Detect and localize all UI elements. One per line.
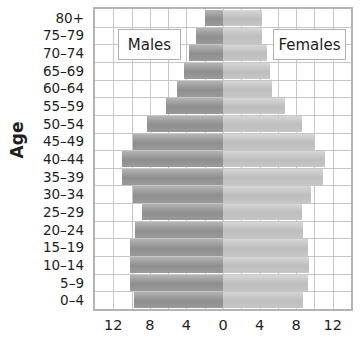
bar-females-10–14 <box>223 257 309 273</box>
x-tick-label: 8 <box>145 317 154 333</box>
population-pyramid-chart: Age 80+75–7970–7465–6960–6455–5950–5445–… <box>0 0 362 348</box>
bar-females-60–64 <box>223 81 272 97</box>
y-tick-label: 80+ <box>56 9 85 27</box>
x-tick-label: 4 <box>255 317 264 333</box>
bar-males-45–49 <box>133 134 223 150</box>
y-tick-label: 30–34 <box>43 185 84 203</box>
y-tick-label: 25–29 <box>43 203 84 221</box>
bar-males-40–44 <box>122 151 223 167</box>
y-tick-label: 60–64 <box>43 79 84 97</box>
bar-females-80+ <box>223 10 262 26</box>
bar-males-0–4 <box>134 292 223 308</box>
bar-females-35–39 <box>223 169 323 185</box>
y-tick-label: 55–59 <box>43 97 84 115</box>
y-tick-label: 15–19 <box>43 238 84 256</box>
bar-males-20–24 <box>135 222 223 238</box>
y-tick-label: 50–54 <box>43 115 84 133</box>
bar-females-55–59 <box>223 98 285 114</box>
y-tick-label: 0–4 <box>60 291 84 309</box>
bar-females-15–19 <box>223 239 308 255</box>
y-tick-label: 10–14 <box>43 256 84 274</box>
bar-males-35–39 <box>122 169 223 185</box>
grid-line-vertical <box>113 9 114 309</box>
bar-females-70–74 <box>223 45 267 61</box>
y-tick-label: 20–24 <box>43 221 84 239</box>
y-tick-label: 70–74 <box>43 44 84 62</box>
bar-males-65–69 <box>184 63 223 79</box>
bar-females-65–69 <box>223 63 270 79</box>
x-tick-label: 12 <box>104 317 122 333</box>
bar-females-20–24 <box>223 222 303 238</box>
bar-males-30–34 <box>133 186 223 202</box>
y-tick-label: 75–79 <box>43 26 84 44</box>
bar-males-5–9 <box>130 275 223 291</box>
y-tick-label: 65–69 <box>43 62 84 80</box>
y-tick-label: 40–44 <box>43 150 84 168</box>
x-tick-label: 12 <box>323 317 341 333</box>
bar-males-15–19 <box>130 239 223 255</box>
bar-males-80+ <box>205 10 223 26</box>
legend-females: Females <box>273 29 346 60</box>
bar-females-75–79 <box>223 28 262 44</box>
bar-females-30–34 <box>223 186 311 202</box>
bar-females-45–49 <box>223 134 314 150</box>
x-tick-label: 8 <box>292 317 301 333</box>
bar-males-50–54 <box>147 116 223 132</box>
y-tick-label: 45–49 <box>43 132 84 150</box>
bar-males-75–79 <box>196 28 223 44</box>
x-tick-label: 4 <box>182 317 191 333</box>
x-tick-label: 0 <box>218 317 227 333</box>
bar-females-25–29 <box>223 204 302 220</box>
bar-males-10–14 <box>130 257 223 273</box>
legend-males: Males <box>118 29 181 60</box>
bar-females-40–44 <box>223 151 325 167</box>
bar-males-60–64 <box>177 81 223 97</box>
y-tick-label: 35–39 <box>43 168 84 186</box>
bar-females-0–4 <box>223 292 303 308</box>
bar-males-25–29 <box>142 204 223 220</box>
y-tick-label: 5–9 <box>60 274 84 292</box>
bar-males-55–59 <box>166 98 223 114</box>
y-axis-title: Age <box>7 122 27 159</box>
bar-males-70–74 <box>189 45 223 61</box>
bar-females-50–54 <box>223 116 302 132</box>
bar-females-5–9 <box>223 275 308 291</box>
